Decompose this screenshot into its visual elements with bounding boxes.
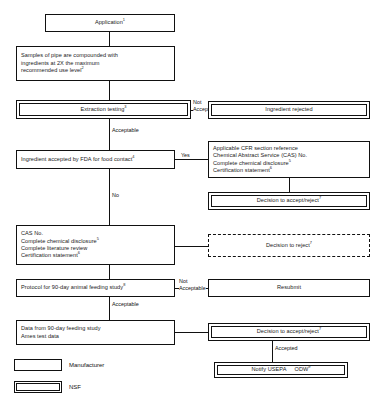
node-protocol-90day: Protocol for 90-day animal feeding study… — [16, 279, 175, 297]
node-ingredient-rejected: Ingredient rejected — [208, 101, 370, 119]
node-samples-compounded: Samples of pipe are compounded with ingr… — [16, 46, 175, 81]
connector-data-to-decision2 — [175, 332, 208, 333]
footnote-marker: 3 — [124, 104, 126, 109]
connector-cfr-to-decision1 — [289, 178, 290, 192]
connector-extraction-to-fda — [109, 119, 110, 150]
legend-item-manufacturer: Manufacturer — [14, 359, 104, 371]
legend-label-nsf: NSF — [69, 384, 81, 390]
legend-swatch-nsf — [14, 381, 62, 393]
edge-label-acceptable-2: Acceptable — [112, 301, 139, 308]
footnote-marker: 7 — [319, 326, 321, 331]
legend-label-manufacturer: Manufacturer — [69, 362, 104, 368]
connector-fda-to-cas — [109, 169, 110, 225]
node-decision-accept-reject-2: Decision to accept/reject7 — [208, 323, 370, 341]
connector-cas-to-protocol — [109, 265, 110, 279]
node-data-90day: Data from 90-day feeding study Ames test… — [16, 320, 175, 345]
node-extraction-testing-inner: Extraction testing3 — [19, 103, 189, 117]
connector-cas-to-decision-reject — [175, 246, 208, 247]
footnote-marker: 6 — [270, 165, 272, 170]
footnote-marker: 7 — [310, 240, 312, 245]
node-data-90day-text: Data from 90-day feeding study Ames test… — [21, 325, 101, 340]
node-fda-accepted: Ingredient accepted by FDA for food cont… — [16, 150, 175, 169]
node-application: Application1 — [45, 14, 175, 32]
node-notify-usepa-odw: Notify USEPA ODW9 — [214, 362, 348, 378]
node-decision-accept-reject-1: Decision to accept/reject7 — [208, 192, 370, 210]
node-decision-accept-reject-1-inner: Decision to accept/reject7 — [211, 195, 368, 208]
footnote-marker: 2 — [81, 65, 83, 70]
legend-swatch-nsf-inner — [16, 383, 59, 390]
node-fda-accepted-label: Ingredient accepted by FDA for food cont… — [21, 156, 135, 163]
node-resubmit: Resubmit — [208, 279, 370, 297]
node-decision-accept-reject-2-inner: Decision to accept/reject7 — [211, 326, 368, 339]
node-resubmit-label: Resubmit — [277, 284, 301, 291]
node-ingredient-rejected-inner: Ingredient rejected — [211, 104, 368, 117]
node-notify-usepa-odw-inner: Notify USEPA ODW9 — [217, 365, 346, 376]
connector-application-to-samples — [109, 32, 110, 46]
node-notify-usepa-odw-label: Notify USEPA ODW9 — [251, 366, 310, 373]
node-samples-text: Samples of pipe are compounded with ingr… — [21, 52, 118, 74]
footnote-marker: 9 — [308, 364, 310, 369]
connector-protocol-to-data — [109, 297, 110, 320]
node-extraction-testing: Extraction testing3 — [16, 100, 191, 119]
node-decision-reject: Decision to reject7 — [208, 234, 370, 257]
node-cas-packet: CAS No. Complete chemical disclosure5 Co… — [16, 225, 175, 265]
footnote-marker: 1 — [123, 17, 125, 22]
node-decision-accept-reject-1-label: Decision to accept/reject7 — [257, 197, 321, 204]
node-application-label: Application1 — [95, 19, 125, 26]
connector-samples-to-extraction — [109, 81, 110, 100]
flowchart-diagram: Application1 Samples of pipe are compoun… — [0, 0, 380, 400]
node-decision-accept-reject-2-label: Decision to accept/reject7 — [257, 328, 321, 335]
footnote-marker: 6 — [78, 251, 80, 256]
node-ingredient-rejected-label: Ingredient rejected — [265, 106, 312, 113]
node-cas-packet-text: CAS No. Complete chemical disclosure5 Co… — [21, 230, 99, 260]
edge-label-not-acceptable-2: NotAcceptable — [179, 278, 206, 291]
edge-label-accepted: Accepted — [275, 345, 297, 352]
node-extraction-testing-label: Extraction testing3 — [80, 106, 126, 113]
node-protocol-90day-label: Protocol for 90-day animal feeding study… — [21, 284, 125, 291]
footnote-marker: 5 — [289, 158, 291, 163]
legend-swatch-manufacturer — [14, 359, 62, 371]
connector-decision2-to-notify — [272, 341, 273, 362]
footnote-marker: 8 — [123, 282, 125, 287]
edge-label-acceptable-1: Acceptable — [112, 127, 139, 134]
edge-label-no: No — [112, 192, 119, 199]
legend-item-nsf: NSF — [14, 381, 81, 393]
node-cfr-packet-text: Applicable CFR section reference Chemica… — [213, 145, 307, 175]
node-decision-reject-label: Decision to reject7 — [266, 242, 312, 249]
footnote-marker: 4 — [132, 154, 134, 159]
footnote-marker: 7 — [319, 195, 321, 200]
connector-fda-to-cfr — [175, 159, 208, 160]
footnote-marker: 5 — [97, 236, 99, 241]
node-cfr-packet: Applicable CFR section reference Chemica… — [208, 141, 370, 178]
edge-label-yes: Yes — [181, 152, 190, 159]
